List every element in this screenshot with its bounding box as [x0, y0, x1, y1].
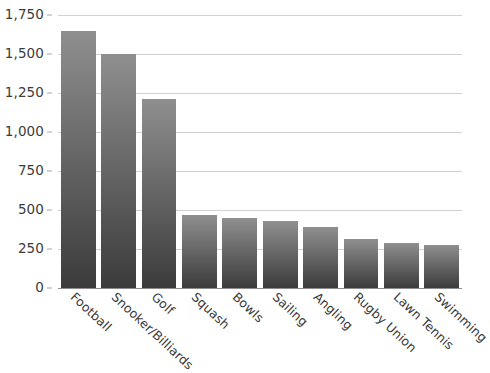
x-axis-label-slot: Swimming: [422, 290, 462, 363]
bar[interactable]: [344, 239, 379, 288]
bar[interactable]: [384, 243, 419, 288]
x-axis-label-slot: Lawn Tennis: [381, 290, 421, 363]
bar-slot: [341, 15, 381, 288]
bar[interactable]: [61, 31, 96, 288]
x-axis: FootballSnooker/BilliardsGolfSquashBowls…: [58, 290, 462, 363]
bar-slot: [139, 15, 179, 288]
x-axis-tick-label: Swimming: [432, 291, 489, 345]
bar[interactable]: [263, 221, 298, 288]
bar[interactable]: [222, 218, 257, 288]
bar-slot: [300, 15, 340, 288]
x-axis-label-slot: Snooker/Billiards: [98, 290, 138, 363]
y-axis-tick-mark: [47, 249, 52, 250]
x-axis-label-slot: Golf: [139, 290, 179, 363]
bar[interactable]: [424, 245, 459, 288]
bar-slot: [220, 15, 260, 288]
y-axis-tick-mark: [47, 54, 52, 55]
y-axis-tick-mark: [47, 15, 52, 16]
y-axis-tick-mark: [47, 132, 52, 133]
y-axis-tick-mark: [47, 171, 52, 172]
x-axis-label-slot: Angling: [300, 290, 340, 363]
bar[interactable]: [101, 54, 136, 288]
y-axis-tick-mark: [47, 288, 52, 289]
bar-series: [58, 15, 462, 288]
y-axis-tick-label: 250: [18, 242, 44, 256]
bar-slot: [179, 15, 219, 288]
y-axis-tick-label: 1,000: [5, 125, 44, 139]
bar-slot: [381, 15, 421, 288]
y-axis-tick-label: 750: [18, 164, 44, 178]
x-axis-label-slot: Bowls: [220, 290, 260, 363]
x-axis-label-slot: Rugby Union: [341, 290, 381, 363]
bar-slot: [58, 15, 98, 288]
bar[interactable]: [182, 215, 217, 288]
bar-slot: [260, 15, 300, 288]
y-axis-tick-label: 1,750: [5, 8, 44, 22]
y-axis: 02505007501,0001,2501,5001,750: [0, 15, 52, 288]
y-axis-tick-label: 0: [35, 281, 44, 295]
bar-slot: [422, 15, 462, 288]
bar[interactable]: [142, 99, 177, 288]
y-axis-tick-label: 1,250: [5, 86, 44, 100]
x-axis-tick-label: Golf: [149, 291, 176, 318]
y-axis-tick-label: 500: [18, 203, 44, 217]
plot-area: [58, 15, 462, 288]
bar[interactable]: [303, 227, 338, 288]
y-axis-tick-mark: [47, 210, 52, 211]
y-axis-tick-mark: [47, 93, 52, 94]
x-axis-label-slot: Sailing: [260, 290, 300, 363]
y-axis-tick-label: 1,500: [5, 47, 44, 61]
x-axis-label-slot: Football: [58, 290, 98, 363]
bar-slot: [98, 15, 138, 288]
x-axis-label-slot: Squash: [179, 290, 219, 363]
